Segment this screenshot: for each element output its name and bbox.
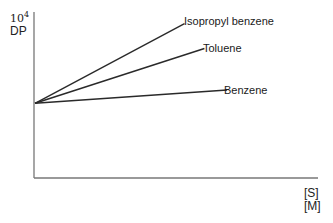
series-label-toluene: Toluene [203,43,242,54]
series-label-isopropyl-benzene: Isopropyl benzene [184,16,274,27]
y-axis-scale-label: 104 [10,9,29,25]
y-axis-label: DP [10,25,27,37]
series-label-benzene: Benzene [224,85,267,96]
series-lines [35,24,227,104]
series-line-toluene [35,49,204,104]
series-line-isopropyl-benzene [35,24,185,104]
series-line-benzene [35,90,227,103]
x-axis-label-denominator: [M] [304,200,321,212]
plot-area [0,0,333,223]
chart: 104 DP [S] [M] Isopropyl benzene Toluene… [0,0,333,223]
x-axis-label-numerator: [S] [304,187,319,199]
